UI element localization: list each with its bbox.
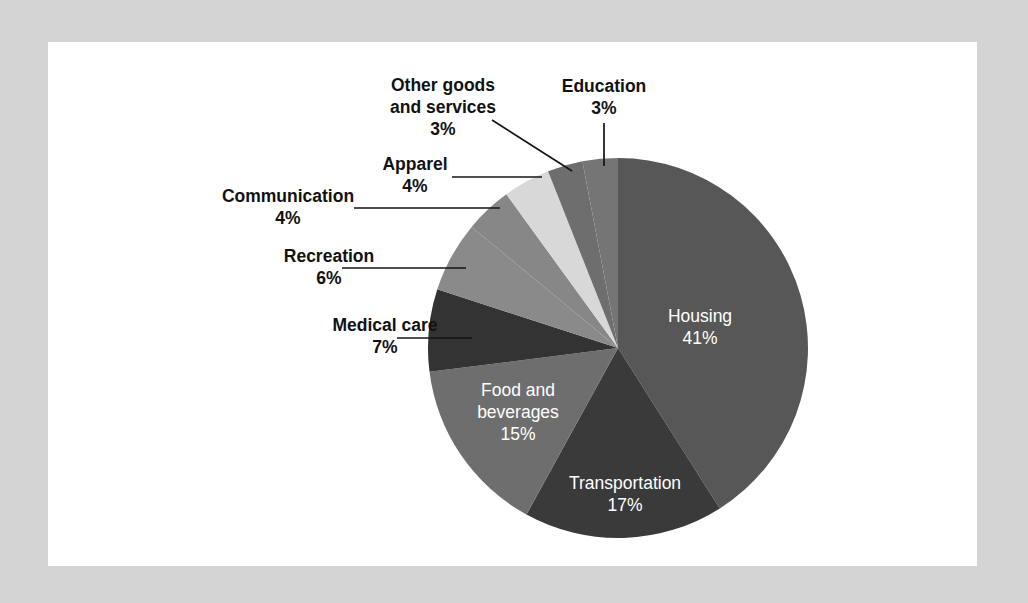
- pie-label-recreation-name: Recreation: [284, 246, 374, 266]
- pie-label-apparel-name: Apparel: [382, 154, 447, 174]
- pie-label-medical-care-name: Medical care: [332, 315, 437, 335]
- leader-line-other-goods-and-services: [492, 120, 572, 171]
- pie-label-communication-percent: 4%: [275, 208, 301, 228]
- pie-label-food-and-beverages-name: Food and: [481, 380, 555, 400]
- pie-label-recreation-percent: 6%: [316, 268, 342, 288]
- pie-label-communication-name: Communication: [222, 186, 354, 206]
- pie-label-food-and-beverages-name2: beverages: [477, 402, 559, 422]
- screenshot-stage: Housing41%Transportation17%Food andbever…: [0, 0, 1028, 603]
- pie-label-education-percent: 3%: [591, 98, 617, 118]
- pie-label-transportation-name: Transportation: [569, 473, 681, 493]
- pie-label-other-goods-and-services-name2: and services: [390, 97, 496, 117]
- pie-label-apparel-percent: 4%: [402, 176, 428, 196]
- pie-label-other-goods-and-services-percent: 3%: [430, 119, 456, 139]
- pie-label-medical-care-percent: 7%: [372, 337, 398, 357]
- pie-label-housing-name: Housing: [668, 306, 732, 326]
- pie-chart: Housing41%Transportation17%Food andbever…: [0, 0, 1028, 603]
- pie-label-housing-percent: 41%: [682, 328, 717, 348]
- pie-label-food-and-beverages-percent: 15%: [500, 424, 535, 444]
- pie-label-other-goods-and-services-name: Other goods: [391, 75, 495, 95]
- pie-label-education-name: Education: [562, 76, 647, 96]
- pie-label-transportation-percent: 17%: [607, 495, 642, 515]
